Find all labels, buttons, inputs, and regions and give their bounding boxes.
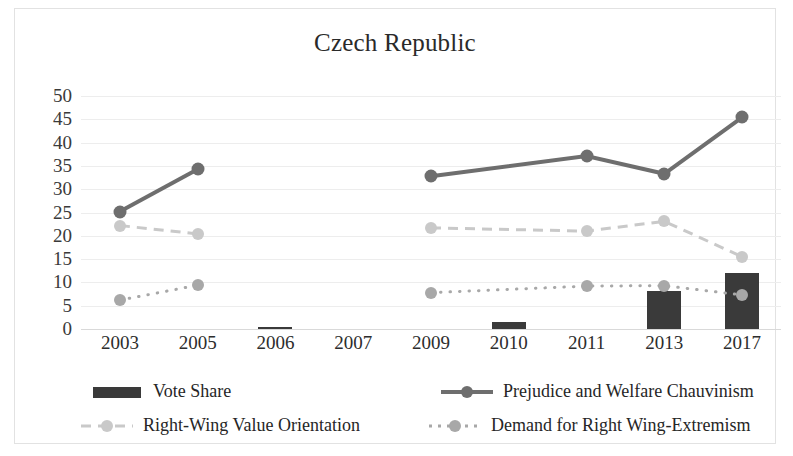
- y-axis-tick-20: 20: [26, 225, 81, 247]
- x-axis-tick-2006: 2006: [256, 332, 294, 354]
- data-point-prejudice-and-welfare-chauvinism-2009: [425, 170, 438, 183]
- legend-swatch-icon: [441, 383, 493, 401]
- data-point-demand-for-right-wing-extremism-2017: [736, 289, 748, 301]
- data-point-prejudice-and-welfare-chauvinism-2013: [658, 167, 671, 180]
- plot-area: 05101520253035404550 2003200520062007200…: [81, 96, 781, 329]
- y-axis-tick-30: 30: [26, 178, 81, 200]
- y-axis-tick-35: 35: [26, 155, 81, 177]
- data-point-prejudice-and-welfare-chauvinism-2017: [736, 111, 749, 124]
- x-axis-tick-2009: 2009: [412, 332, 450, 354]
- line-demand-for-right-wing-extremism: [120, 285, 198, 300]
- y-axis-tick-40: 40: [26, 132, 81, 154]
- data-point-demand-for-right-wing-extremism-2003: [114, 294, 126, 306]
- data-point-demand-for-right-wing-extremism-2011: [581, 280, 593, 292]
- data-point-demand-for-right-wing-extremism-2005: [192, 279, 204, 291]
- chart-legend: Vote SharePrejudice and Welfare Chauvini…: [81, 381, 781, 443]
- legend-label: Demand for Right Wing-Extremism: [491, 415, 750, 436]
- line-prejudice-and-welfare-chauvinism: [120, 169, 198, 211]
- chart-title: Czech Republic: [15, 29, 775, 57]
- y-axis-tick-50: 50: [26, 85, 81, 107]
- y-axis-tick-15: 15: [26, 248, 81, 270]
- legend-swatch-icon: [429, 417, 481, 435]
- data-point-prejudice-and-welfare-chauvinism-2003: [113, 205, 126, 218]
- axis-baseline: [81, 329, 781, 330]
- y-axis-tick-5: 5: [26, 295, 81, 317]
- chart-container: Czech Republic 05101520253035404550 2003…: [14, 8, 776, 444]
- legend-marker-dot-icon: [461, 386, 473, 398]
- x-axis-tick-2010: 2010: [490, 332, 528, 354]
- line-prejudice-and-welfare-chauvinism: [431, 117, 742, 176]
- legend-marker-dot-icon: [449, 420, 461, 432]
- data-point-right-wing-value-orientation-2013: [658, 215, 670, 227]
- y-axis-tick-10: 10: [26, 271, 81, 293]
- legend-item-prejudice-and-welfare-chauvinism[interactable]: Prejudice and Welfare Chauvinism: [441, 381, 754, 402]
- x-axis-tick-2013: 2013: [645, 332, 683, 354]
- data-point-right-wing-value-orientation-2003: [114, 220, 126, 232]
- data-point-right-wing-value-orientation-2005: [192, 228, 204, 240]
- y-axis-tick-0: 0: [26, 318, 81, 340]
- data-point-demand-for-right-wing-extremism-2009: [425, 287, 437, 299]
- data-point-right-wing-value-orientation-2009: [425, 222, 437, 234]
- y-axis-tick-45: 45: [26, 108, 81, 130]
- y-axis-tick-25: 25: [26, 202, 81, 224]
- x-axis-tick-2017: 2017: [723, 332, 761, 354]
- legend-label: Vote Share: [153, 381, 231, 402]
- data-point-demand-for-right-wing-extremism-2013: [658, 280, 670, 292]
- x-axis-tick-2007: 2007: [334, 332, 372, 354]
- legend-bar-glyph: [93, 387, 141, 398]
- legend-label: Prejudice and Welfare Chauvinism: [503, 381, 754, 402]
- x-axis-tick-2003: 2003: [101, 332, 139, 354]
- legend-swatch-icon: [91, 383, 143, 401]
- legend-marker-dot-icon: [101, 420, 113, 432]
- line-right-wing-value-orientation: [120, 226, 198, 234]
- data-point-right-wing-value-orientation-2017: [736, 251, 748, 263]
- x-axis-tick-2005: 2005: [179, 332, 217, 354]
- data-point-prejudice-and-welfare-chauvinism-2005: [191, 163, 204, 176]
- legend-swatch-icon: [81, 417, 133, 435]
- x-axis-tick-2011: 2011: [568, 332, 605, 354]
- data-point-right-wing-value-orientation-2011: [581, 225, 593, 237]
- legend-item-demand-for-right-wing-extremism[interactable]: Demand for Right Wing-Extremism: [429, 415, 750, 436]
- legend-item-right-wing-value-orientation[interactable]: Right-Wing Value Orientation: [81, 415, 360, 436]
- legend-label: Right-Wing Value Orientation: [143, 415, 360, 436]
- data-point-prejudice-and-welfare-chauvinism-2011: [580, 150, 593, 163]
- legend-item-vote-share[interactable]: Vote Share: [91, 381, 231, 402]
